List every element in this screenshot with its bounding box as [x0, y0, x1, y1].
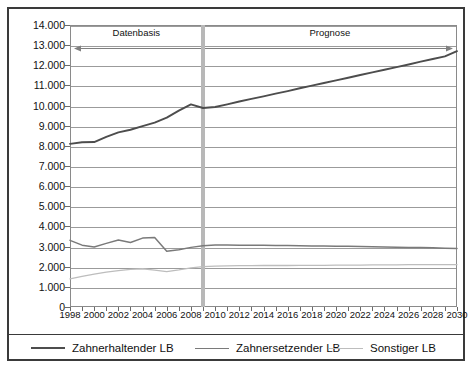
legend-label: Zahnerhaltender LB	[72, 342, 174, 354]
y-tick-label: 12.000	[9, 59, 70, 71]
x-tick-label: 2030	[437, 309, 476, 320]
y-tick-label: 5.000	[9, 200, 70, 212]
y-tick-label: 11.000	[9, 79, 70, 91]
legend-label: Zahnersetzender LB	[236, 342, 340, 354]
arrow-right-icon	[205, 39, 453, 48]
legend-line-swatch	[31, 347, 65, 349]
y-tick-label: 8.000	[9, 140, 70, 152]
series-lines	[70, 25, 457, 307]
annotation-label: Prognose	[310, 27, 351, 38]
y-tick-label: 7.000	[9, 160, 70, 172]
y-tick-label: 6.000	[9, 180, 70, 192]
legend-item[interactable]: Sonstiger LB	[329, 340, 436, 356]
y-tick-label: 14.000	[9, 19, 70, 31]
chart-frame: 01.0002.0003.0004.0005.0006.0007.0008.00…	[7, 7, 465, 361]
y-tick-label: 3.000	[9, 241, 70, 253]
legend-item[interactable]: Zahnersetzender LB	[195, 340, 340, 356]
y-tick-label: 1.000	[9, 281, 70, 293]
legend-label: Sonstiger LB	[370, 342, 436, 354]
y-tick-label: 13.000	[9, 39, 70, 51]
annotation-label: Datenbasis	[113, 27, 161, 38]
legend-line-swatch	[329, 348, 363, 349]
y-tick-label: 4.000	[9, 220, 70, 232]
series-line	[70, 238, 457, 252]
series-line	[70, 265, 457, 279]
legend-item[interactable]: Zahnerhaltender LB	[31, 340, 174, 356]
series-line	[70, 51, 457, 144]
chart-area: 01.0002.0003.0004.0005.0006.0007.0008.00…	[9, 9, 463, 334]
y-tick-label: 10.000	[9, 100, 70, 112]
y-axis: 01.0002.0003.0004.0005.0006.0007.0008.00…	[9, 9, 70, 334]
legend-line-swatch	[195, 348, 229, 349]
arrow-left-icon	[74, 39, 201, 48]
y-tick-label: 9.000	[9, 120, 70, 132]
chart-legend: Zahnerhaltender LBZahnersetzender LBSons…	[9, 334, 463, 361]
y-tick-label: 2.000	[9, 261, 70, 273]
